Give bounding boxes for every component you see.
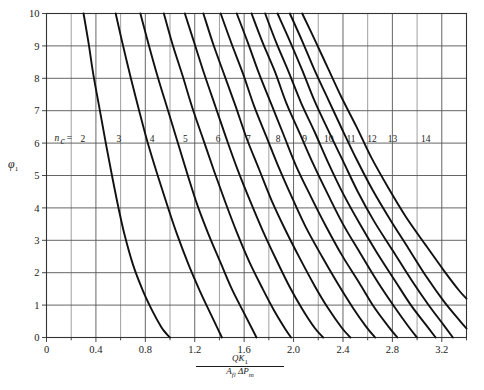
- curve-label-12: 12: [367, 134, 377, 144]
- x-tick-label-8: 3.2: [435, 344, 448, 355]
- curve-label-2: 2: [81, 134, 86, 144]
- curve-label-9: 9: [302, 134, 307, 144]
- curve-label-11: 11: [346, 134, 355, 144]
- curve-label-8: 8: [276, 134, 281, 144]
- family-label-equals: =: [66, 133, 72, 143]
- y-tick-label-2: 2: [34, 267, 39, 278]
- curve-label-13: 13: [388, 134, 398, 144]
- y-axis-title-subscript: 1: [15, 165, 19, 173]
- x-axis-denom-delta-sub: m: [249, 371, 254, 379]
- x-axis-numer-sub: 1: [245, 358, 249, 366]
- x-tick-label-0: 0: [44, 344, 49, 355]
- y-tick-label-6: 6: [34, 138, 39, 149]
- x-tick-label-5: 2.0: [287, 344, 300, 355]
- x-axis-denom-delta: ΔP: [238, 366, 249, 376]
- x-tick-label-3: 1.2: [188, 344, 201, 355]
- curve-label-10: 10: [324, 134, 334, 144]
- y-tick-label-1: 1: [34, 300, 39, 311]
- y-tick-label-10: 10: [29, 8, 40, 19]
- y-tick-label-3: 3: [34, 235, 39, 246]
- y-tick-label-4: 4: [34, 203, 40, 214]
- y-tick-label-7: 7: [34, 105, 39, 116]
- x-tick-label-2: 0.8: [139, 344, 152, 355]
- engineering-nomograph-chart: 234567891011121314 00.40.81.21.62.02.42.…: [0, 0, 484, 390]
- y-tick-label-0: 0: [34, 332, 39, 343]
- y-tick-label-8: 8: [34, 73, 39, 84]
- y-axis-title: φ1: [8, 157, 18, 173]
- y-axis-title-symbol: φ: [8, 157, 15, 171]
- curve-label-6: 6: [216, 134, 221, 144]
- x-axis-title: QK1 Afl ΔPm: [196, 354, 284, 379]
- family-label-symbol: n: [55, 133, 60, 143]
- curve-label-7: 7: [246, 134, 251, 144]
- curve-label-5: 5: [183, 134, 188, 144]
- chart-root: 234567891011121314 00.40.81.21.62.02.42.…: [0, 0, 484, 390]
- y-tick-label-5: 5: [34, 170, 39, 181]
- curve-label-14: 14: [421, 134, 431, 144]
- x-axis-title-denominator: Afl ΔPm: [196, 367, 284, 379]
- x-tick-label-1: 0.4: [89, 344, 103, 355]
- curve-label-4: 4: [150, 134, 155, 144]
- y-tick-label-9: 9: [34, 41, 39, 52]
- x-axis-denom-a-sub: fl: [232, 371, 236, 379]
- curve-label-3: 3: [116, 134, 121, 144]
- x-axis-numer-main: QK: [232, 353, 245, 363]
- x-tick-label-6: 2.4: [336, 344, 350, 355]
- x-tick-label-7: 2.8: [386, 344, 399, 355]
